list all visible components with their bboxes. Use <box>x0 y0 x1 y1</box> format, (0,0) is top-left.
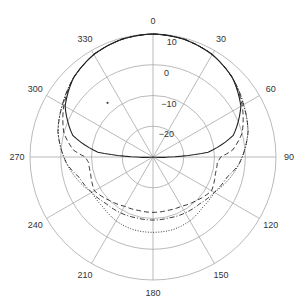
radial-tick-label: 10 <box>167 37 177 47</box>
grid-spoke <box>153 157 260 219</box>
radial-tick-label: −20 <box>159 129 174 139</box>
angle-tick-label: 240 <box>28 220 43 230</box>
angle-tick-label: 0 <box>150 16 155 26</box>
angle-tick-label: 270 <box>9 152 24 162</box>
angle-tick-label: 210 <box>77 270 92 280</box>
grid-spoke <box>46 157 153 219</box>
radial-tick-label: 0 <box>164 68 169 78</box>
grid-spoke <box>92 157 154 264</box>
angle-tick-label: 60 <box>266 84 276 94</box>
polar-chart: 0306090120150180210240270300330−20−10010 <box>0 0 302 306</box>
angle-tick-label: 180 <box>145 288 160 298</box>
angle-tick-label: 330 <box>77 34 92 44</box>
annotation-dot <box>106 102 108 104</box>
angle-tick-label: 150 <box>213 270 228 280</box>
radial-tick-label: −10 <box>161 99 176 109</box>
grid-spoke <box>153 157 215 264</box>
grid-spoke <box>92 50 154 157</box>
angle-tick-label: 120 <box>263 220 278 230</box>
polar-plot-svg: 0306090120150180210240270300330−20−10010 <box>0 0 302 306</box>
angle-tick-label: 30 <box>216 34 226 44</box>
angle-tick-label: 90 <box>284 152 294 162</box>
angle-tick-label: 300 <box>28 84 43 94</box>
